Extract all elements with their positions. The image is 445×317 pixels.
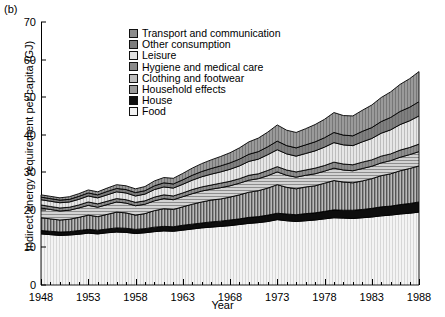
legend-swatch-food: [129, 107, 138, 116]
x-tick-label: 1978: [312, 291, 336, 303]
y-tick-mark: [41, 59, 46, 60]
x-tick-mark-minor: [145, 282, 146, 285]
x-tick-label: 1953: [76, 291, 100, 303]
x-tick-label: 1963: [171, 291, 195, 303]
x-tick-mark-minor: [343, 282, 344, 285]
legend-item: Other consumption: [129, 39, 281, 50]
legend-swatch-leisure: [129, 51, 138, 60]
x-tick-mark-minor: [164, 282, 165, 285]
legend-label: House: [142, 95, 172, 106]
legend-swatch-household-effects: [129, 85, 138, 94]
legend-item: Hygiene and medical care: [129, 62, 281, 73]
x-tick-mark-minor: [400, 282, 401, 285]
x-tick-mark-minor: [192, 282, 193, 285]
y-tick-label: 10: [24, 241, 41, 253]
legend-item: Clothing and footwear: [129, 73, 281, 84]
legend-swatch-transport-and-communication: [129, 29, 138, 38]
x-tick-mark-minor: [98, 282, 99, 285]
x-tick-mark-major: [41, 279, 42, 285]
legend-item: House: [129, 95, 281, 106]
legend-item: Leisure: [129, 50, 281, 61]
legend-swatch-other-consumption: [129, 40, 138, 49]
x-tick-mark-minor: [69, 282, 70, 285]
x-tick-mark-minor: [239, 282, 240, 285]
y-tick-label: 30: [24, 166, 41, 178]
x-tick-mark-minor: [173, 282, 174, 285]
x-tick-mark-minor: [287, 282, 288, 285]
x-tick-mark-minor: [315, 282, 316, 285]
x-tick-mark-minor: [268, 282, 269, 285]
x-tick-mark-minor: [249, 282, 250, 285]
x-tick-mark-major: [88, 279, 89, 285]
x-tick-mark-minor: [60, 282, 61, 285]
y-tick-label: 40: [24, 129, 41, 141]
x-tick-mark-minor: [154, 282, 155, 285]
x-tick-mark-minor: [202, 282, 203, 285]
x-tick-mark-minor: [211, 282, 212, 285]
x-tick-label: 1948: [29, 291, 53, 303]
legend-label: Other consumption: [142, 39, 231, 50]
x-tick-label: 1988: [407, 291, 431, 303]
legend-label: Leisure: [142, 50, 176, 61]
legend-item: Food: [129, 106, 281, 117]
x-tick-mark-major: [277, 279, 278, 285]
x-tick-label: 1983: [360, 291, 384, 303]
x-tick-mark-minor: [221, 282, 222, 285]
x-tick-mark-minor: [334, 282, 335, 285]
y-tick-mark: [41, 172, 46, 173]
legend-item: Household effects: [129, 84, 281, 95]
legend-swatch-house: [129, 96, 138, 105]
x-tick-mark-minor: [306, 282, 307, 285]
x-tick-mark-major: [183, 279, 184, 285]
x-tick-mark-minor: [391, 282, 392, 285]
x-tick-mark-minor: [353, 282, 354, 285]
legend-label: Food: [142, 106, 166, 117]
y-tick-label: 50: [24, 91, 41, 103]
y-tick-label: 0: [30, 279, 41, 291]
legend-label: Transport and communication: [142, 28, 281, 39]
legend-swatch-clothing-and-footwear: [129, 74, 138, 83]
legend-item: Transport and communication: [129, 28, 281, 39]
y-tick-mark: [41, 134, 46, 135]
x-tick-label: 1973: [265, 291, 289, 303]
legend-label: Household effects: [142, 84, 226, 95]
y-tick-mark: [41, 209, 46, 210]
x-tick-label: 1968: [218, 291, 242, 303]
x-tick-mark-minor: [50, 282, 51, 285]
x-tick-mark-minor: [107, 282, 108, 285]
y-tick-label: 20: [24, 204, 41, 216]
x-tick-mark-minor: [362, 282, 363, 285]
y-tick-mark: [41, 97, 46, 98]
x-tick-mark-minor: [410, 282, 411, 285]
x-tick-mark-major: [419, 279, 420, 285]
x-tick-mark-major: [230, 279, 231, 285]
x-tick-mark-major: [372, 279, 373, 285]
legend-swatch-hygiene-and-medical-care: [129, 62, 138, 71]
x-tick-mark-minor: [126, 282, 127, 285]
x-tick-mark-minor: [258, 282, 259, 285]
y-tick-mark: [41, 247, 46, 248]
legend: Transport and communication Other consum…: [129, 28, 281, 118]
x-tick-mark-minor: [296, 282, 297, 285]
x-tick-mark-minor: [79, 282, 80, 285]
plot-area: 010203040506070 194819531958196319681973…: [41, 22, 419, 285]
legend-label: Clothing and footwear: [142, 73, 244, 84]
panel-label: (b): [4, 3, 17, 15]
x-tick-label: 1958: [123, 291, 147, 303]
y-tick-label: 70: [24, 16, 41, 28]
x-tick-mark-minor: [117, 282, 118, 285]
x-tick-mark-major: [136, 279, 137, 285]
chart-figure: (b) Indirect energy requirement per capi…: [0, 0, 445, 317]
legend-label: Hygiene and medical care: [142, 62, 263, 73]
y-tick-mark: [41, 22, 46, 23]
x-tick-mark-minor: [381, 282, 382, 285]
x-tick-mark-major: [325, 279, 326, 285]
y-tick-label: 60: [24, 54, 41, 66]
